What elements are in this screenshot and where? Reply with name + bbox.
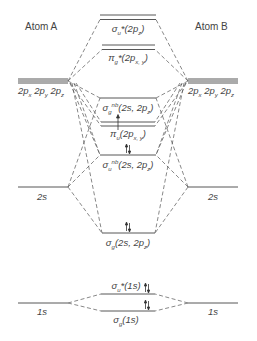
mo-label-sigma-g-2s2pz: σg(2s, 2pz) (106, 238, 150, 250)
right-2s-label: 2s (208, 192, 218, 202)
electron-pair-arrows (125, 144, 130, 154)
mo-label-sigma-u-star-2pz: σu*(2pz) (112, 24, 145, 36)
mo-label-sigma-u-star-1s: σu*(1s) (111, 281, 140, 293)
mo-label-pi-u-2pxy: πu(2px, y) (110, 129, 146, 141)
atom-b-label: Atom B (195, 22, 228, 32)
left-2s-label: 2s (37, 192, 47, 202)
right-2p-label: 2px 2py 2pz (188, 86, 234, 98)
left-1s-label: 1s (37, 307, 47, 317)
mo-label-sigma-g-nb: σgnb(2s, 2pz) (103, 102, 154, 115)
mo-label-sigma-u-nb: σunb(2s, 2pz) (103, 159, 154, 172)
mo-label-pi-g-star-2pxy: πg*(2px, y) (108, 53, 148, 65)
right-2p-level (188, 79, 238, 83)
right-1s-label: 1s (208, 307, 218, 317)
atom-a-label: Atom A (25, 22, 57, 32)
left-2p-label: 2px 2py 2pz (18, 86, 64, 98)
mo-label-sigma-g-1s: σg(1s) (113, 315, 138, 327)
left-2p-level (18, 79, 68, 83)
